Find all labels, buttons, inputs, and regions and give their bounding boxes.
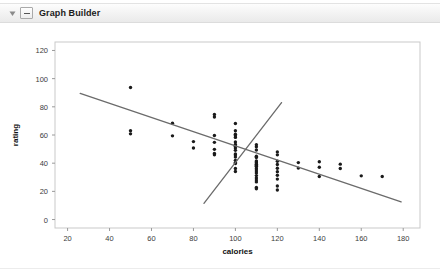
fit-lines xyxy=(80,93,401,203)
data-point xyxy=(213,113,216,116)
data-point xyxy=(234,129,237,132)
data-point xyxy=(171,134,174,137)
panel-bottom-divider xyxy=(0,268,440,269)
data-point xyxy=(234,122,237,125)
x-tick-label: 80 xyxy=(189,234,197,243)
data-point xyxy=(213,141,216,144)
data-point xyxy=(234,155,237,158)
data-point xyxy=(360,174,363,177)
data-point xyxy=(339,162,342,165)
y-axis-ticks: 020406080100120 xyxy=(35,46,55,224)
y-tick-label: 20 xyxy=(40,187,48,196)
data-point xyxy=(129,132,132,135)
y-axis-title: rating xyxy=(11,124,20,146)
data-point xyxy=(192,140,195,143)
data-point xyxy=(318,166,321,169)
data-point xyxy=(192,146,195,149)
data-point xyxy=(234,149,237,152)
scatter-plot-panel: 20406080100120140160180 020406080100120 … xyxy=(0,24,440,271)
data-point xyxy=(234,170,237,173)
data-point xyxy=(276,150,279,153)
data-point xyxy=(381,175,384,178)
data-point xyxy=(297,161,300,164)
graph-builder-titlebar: Graph Builder xyxy=(0,3,440,23)
plot-frame-rect xyxy=(55,42,420,228)
data-point xyxy=(213,134,216,137)
x-tick-label: 120 xyxy=(271,234,284,243)
data-point xyxy=(213,148,216,151)
triangle-down-icon[interactable] xyxy=(8,9,17,18)
data-point xyxy=(255,145,258,148)
data-point xyxy=(255,156,258,159)
y-tick-label: 40 xyxy=(40,159,48,168)
data-point xyxy=(276,188,279,191)
x-tick-label: 20 xyxy=(63,234,71,243)
data-point xyxy=(129,129,132,132)
overall-regression-line xyxy=(80,93,401,201)
data-point xyxy=(276,184,279,187)
x-tick-label: 60 xyxy=(147,234,155,243)
data-point xyxy=(255,180,258,183)
x-tick-label: 40 xyxy=(105,234,113,243)
data-point xyxy=(276,163,279,166)
x-axis-title: calories xyxy=(222,247,253,256)
y-tick-label: 0 xyxy=(44,216,48,225)
data-point xyxy=(234,167,237,170)
y-tick-label: 100 xyxy=(35,75,48,84)
y-tick-label: 80 xyxy=(40,103,48,112)
data-point xyxy=(255,187,258,190)
scatter-chart: 20406080100120140160180 020406080100120 … xyxy=(0,24,440,271)
y-tick-label: 120 xyxy=(35,46,48,55)
data-point xyxy=(276,170,279,173)
x-tick-label: 100 xyxy=(229,234,242,243)
data-point xyxy=(318,175,321,178)
data-point xyxy=(339,167,342,170)
data-point xyxy=(276,177,279,180)
data-point xyxy=(255,148,258,151)
data-point xyxy=(276,167,279,170)
x-axis-ticks: 20406080100120140160180 xyxy=(63,228,409,243)
data-points xyxy=(129,86,384,192)
data-point xyxy=(234,136,237,139)
x-tick-label: 160 xyxy=(355,234,368,243)
x-tick-label: 180 xyxy=(397,234,410,243)
data-point xyxy=(129,86,132,89)
plot-frame xyxy=(55,42,420,228)
page-title: Graph Builder xyxy=(39,8,100,18)
y-tick-label: 60 xyxy=(40,131,48,140)
x-tick-label: 140 xyxy=(313,234,326,243)
data-point xyxy=(276,174,279,177)
data-point xyxy=(213,153,216,156)
data-point xyxy=(276,153,279,156)
outline-collapse-icon[interactable] xyxy=(20,7,33,19)
data-point xyxy=(318,160,321,163)
